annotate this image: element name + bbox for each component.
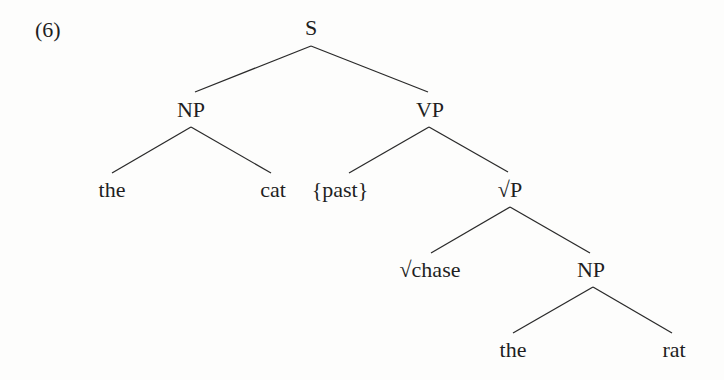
example-number: (6) (35, 18, 61, 42)
leaf-past: {past} (312, 178, 369, 202)
edge-s-np (195, 46, 311, 92)
edge-np-the (112, 127, 191, 173)
edge-vp-past (349, 127, 429, 173)
node-np-object: NP (577, 258, 605, 282)
edge-rootp-np (510, 207, 590, 253)
edge-np-cat (191, 127, 271, 173)
node-vp: VP (416, 98, 444, 122)
leaf-cat: cat (260, 178, 286, 202)
leaf-rat: rat (662, 338, 685, 362)
edge-np2-rat (593, 287, 672, 333)
node-np-subject: NP (177, 98, 205, 122)
leaf-the-subject: the (99, 178, 126, 202)
edge-vp-rootp (429, 127, 508, 172)
leaf-root-chase: √chase (400, 258, 461, 282)
node-root-phrase: √P (498, 178, 522, 202)
edge-rootp-chase (431, 207, 510, 253)
edge-s-vp (311, 46, 428, 92)
node-s: S (305, 16, 317, 40)
leaf-the-object: the (500, 338, 527, 362)
syntax-tree-diagram: (6) S NP VP the cat {past} √P √chase NP … (0, 0, 724, 380)
edge-np2-the (513, 287, 593, 333)
